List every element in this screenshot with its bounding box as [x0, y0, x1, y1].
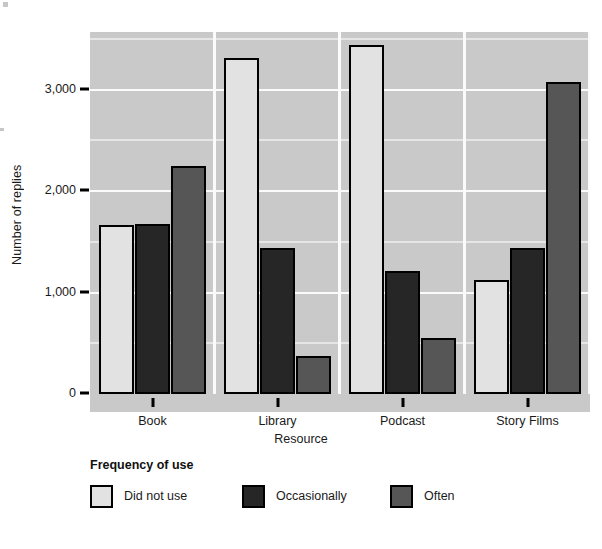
bar-library-did-not-use[interactable] [224, 58, 259, 394]
gridline-vertical [213, 32, 216, 394]
y-axis-tick-mark [80, 290, 89, 293]
legend-swatch-icon [390, 485, 413, 508]
legend-items: Did not useOccasionallyOften [90, 483, 560, 509]
x-axis-title: Resource [0, 432, 602, 446]
legend-title: Frequency of use [90, 458, 560, 472]
x-axis-tick-mark [401, 398, 404, 407]
legend-item-did-not-use[interactable]: Did not use [90, 485, 187, 508]
bar-podcast-occasionally[interactable] [385, 271, 420, 394]
x-axis-tick-mark [276, 398, 279, 407]
x-axis-tick-label-podcast: Podcast [380, 414, 425, 428]
y-axis-tick-label: 0 [30, 386, 76, 400]
legend-item-label: Did not use [124, 489, 187, 503]
bar-book-occasionally[interactable] [135, 224, 170, 394]
bar-story-films-did-not-use[interactable] [474, 280, 509, 394]
x-axis-tick-label-story-films: Story Films [496, 414, 559, 428]
x-axis-tick-label-library: Library [258, 414, 296, 428]
legend-item-often[interactable]: Often [390, 485, 455, 508]
legend-item-label: Often [424, 489, 455, 503]
scan-speckle [0, 128, 4, 131]
legend: Frequency of use Did not useOccasionally… [90, 458, 560, 509]
bar-book-did-not-use[interactable] [99, 225, 134, 394]
y-axis-tick-label: 2,000 [30, 183, 76, 197]
gridline-vertical [463, 32, 466, 394]
legend-item-occasionally[interactable]: Occasionally [242, 485, 347, 508]
bar-podcast-often[interactable] [421, 338, 456, 394]
gridline-vertical [588, 32, 590, 394]
bar-book-often[interactable] [171, 166, 206, 394]
y-axis-tick-mark [80, 189, 89, 192]
legend-item-label: Occasionally [276, 489, 347, 503]
bar-story-films-occasionally[interactable] [510, 248, 545, 395]
x-axis-tick-mark [151, 398, 154, 407]
x-axis-band [90, 394, 590, 412]
bar-story-films-often[interactable] [546, 82, 581, 394]
y-axis-tick-mark [80, 87, 89, 90]
y-axis-tick-mark [80, 392, 89, 395]
bar-library-often[interactable] [296, 356, 331, 394]
x-axis-tick-mark [526, 398, 529, 407]
y-axis-tick-labels: 01,0002,0003,000 [26, 0, 76, 549]
x-axis-tick-label-book: Book [138, 414, 167, 428]
bar-library-occasionally[interactable] [260, 248, 295, 394]
legend-swatch-icon [90, 485, 113, 508]
legend-swatch-icon [242, 485, 265, 508]
bar-chart-figure: Number of replies 01,0002,0003,000 BookL… [0, 0, 602, 549]
scan-speckle [3, 2, 8, 7]
y-axis-tick-label: 3,000 [30, 82, 76, 96]
y-axis-tick-label: 1,000 [30, 285, 76, 299]
plot-area [90, 32, 590, 394]
gridline-vertical [338, 32, 341, 394]
bar-podcast-did-not-use[interactable] [349, 45, 384, 394]
